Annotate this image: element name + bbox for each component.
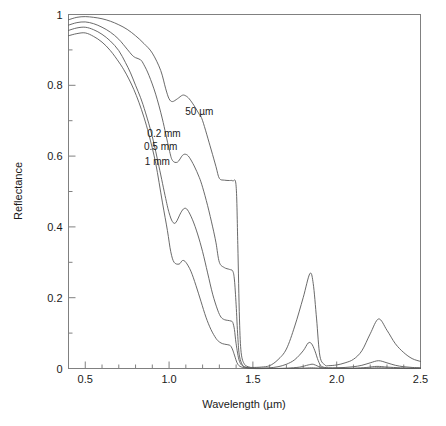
x-tick-label: 0.5 (78, 373, 93, 385)
curve-label: 50 µm (185, 106, 213, 117)
y-axis-ticks (69, 15, 76, 369)
y-tick-label: 0.8 (47, 79, 62, 91)
y-tick-label: 0.4 (47, 221, 62, 233)
curve-annotations: 50 µm0.2 mm0.5 mm1 mm (144, 106, 213, 167)
plot-frame (69, 15, 421, 369)
y-tick-label: 0.6 (47, 150, 62, 162)
y-axis-tick-labels: 00.20.40.60.81 (47, 9, 62, 375)
x-tick-label: 2.0 (329, 373, 344, 385)
curve-label: 0.2 mm (147, 128, 180, 139)
y-tick-label: 1 (56, 9, 62, 21)
y-tick-label: 0 (56, 363, 62, 375)
data-curves (69, 17, 421, 369)
curve-label: 0.5 mm (144, 141, 177, 152)
curve-0-2-mm (69, 22, 421, 368)
y-tick-label: 0.2 (47, 292, 62, 304)
curve-50-m (69, 17, 421, 368)
chart-canvas: 0.51.01.52.02.5 00.20.40.60.81 50 µm0.2 … (0, 0, 446, 426)
x-tick-label: 2.5 (413, 373, 428, 385)
x-tick-label: 1.5 (245, 373, 260, 385)
curve-label: 1 mm (145, 156, 170, 167)
reflectance-chart-figure: 0.51.01.52.02.5 00.20.40.60.81 50 µm0.2 … (0, 0, 446, 426)
y-axis-title: Reflectance (12, 162, 24, 220)
x-axis-tick-labels: 0.51.01.52.02.5 (78, 373, 429, 385)
x-tick-label: 1.0 (161, 373, 176, 385)
curve-0-5-mm (69, 27, 421, 368)
curve-1-mm (69, 33, 421, 369)
x-axis-title: Wavelength (µm) (202, 398, 286, 410)
